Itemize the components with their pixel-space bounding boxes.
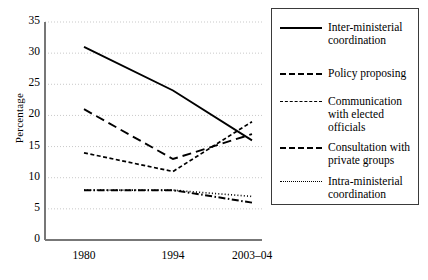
legend-item[interactable]: Inter-ministerialcoordination [272,21,420,47]
legend-line-sample-icon [278,175,324,189]
data-series-group [84,47,252,203]
legend-item[interactable]: Intra-ministerialcoordination [272,175,420,201]
axis-lines [45,22,262,240]
gridlines [45,22,262,209]
legend-line-sample-icon [278,95,324,109]
legend-line-sample-icon [278,21,324,35]
legend-line-sample-icon [278,67,324,81]
legend-item[interactable]: Communicationwith electedofficials [272,95,420,134]
series-line [84,109,252,159]
legend-item-label: Communicationwith electedofficials [324,95,402,134]
line-chart: Percentage 05101520253035 198019942003–0… [0,0,428,280]
series-line [84,47,252,140]
legend-item[interactable]: Consultation withprivate groups [272,141,420,167]
legend-item-label: Inter-ministerialcoordination [324,21,403,47]
series-line [84,190,252,202]
legend-line-sample-icon [278,141,324,155]
legend-item-label: Intra-ministerialcoordination [324,175,403,201]
legend-item-label: Consultation withprivate groups [324,141,410,167]
legend-item[interactable]: Policy proposing [272,67,420,81]
legend: Inter-ministerialcoordinationPolicy prop… [271,8,419,205]
legend-item-label: Policy proposing [324,67,406,80]
